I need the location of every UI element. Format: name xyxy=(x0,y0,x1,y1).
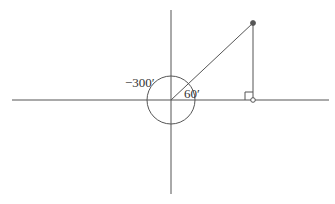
diagram-canvas: −300′ 60′ xyxy=(0,0,335,204)
positive-angle-label: 60′ xyxy=(184,86,200,101)
angle-diagram: −300′ 60′ xyxy=(0,0,335,204)
filled-point xyxy=(251,21,256,26)
negative-angle-label: −300′ xyxy=(125,75,155,90)
open-point xyxy=(251,98,256,103)
